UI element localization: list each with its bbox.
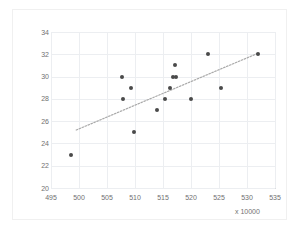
data-point (168, 86, 172, 90)
data-point (163, 97, 167, 101)
x-axis-tick-label: 495 (36, 194, 66, 201)
data-point (219, 86, 223, 90)
y-axis-tick-label: 26 (23, 118, 49, 125)
plot-area (51, 32, 275, 188)
y-axis-tick-label: 30 (23, 73, 49, 80)
gridline-vertical (275, 32, 276, 188)
y-axis-tick-label: 20 (23, 185, 49, 192)
x-axis-tick-label: 510 (120, 194, 150, 201)
data-point (69, 153, 73, 157)
x-axis-tick-label: 530 (232, 194, 262, 201)
data-point (129, 86, 133, 90)
data-point (189, 97, 193, 101)
x-axis-tick-label: 535 (260, 194, 290, 201)
y-axis-tick-label: 28 (23, 95, 49, 102)
data-point (121, 97, 125, 101)
chart-frame: 2022242628303234 49550050551051552052553… (12, 9, 287, 220)
x-axis-tick-label: 500 (64, 194, 94, 201)
x-axis-tick-labels: 495500505510515520525530535 (51, 194, 275, 206)
trendline (51, 32, 275, 188)
scatter-chart-card: 2022242628303234 49550050551051552052553… (0, 0, 299, 229)
x-axis-title: x 10000 (235, 208, 260, 215)
y-axis-tick-labels: 2022242628303234 (19, 32, 49, 188)
x-axis-tick-label: 520 (176, 194, 206, 201)
x-axis-tick-label: 525 (204, 194, 234, 201)
y-axis-tick-label: 24 (23, 140, 49, 147)
x-axis-tick-label: 505 (92, 194, 122, 201)
x-axis-tick-label: 515 (148, 194, 178, 201)
gridline-horizontal (51, 188, 275, 189)
y-axis-tick-label: 32 (23, 51, 49, 58)
y-axis-tick-label: 22 (23, 162, 49, 169)
data-point (120, 75, 124, 79)
y-axis-tick-label: 34 (23, 29, 49, 36)
data-point (174, 75, 178, 79)
